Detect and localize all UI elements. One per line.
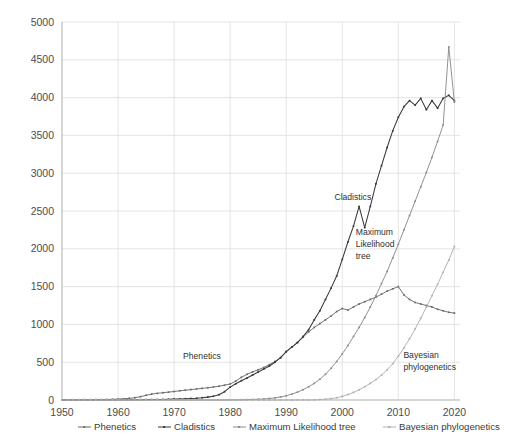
data-point — [325, 398, 327, 400]
y-axis-tick-label: 2500 — [31, 205, 55, 217]
data-point — [375, 379, 377, 381]
data-point — [341, 353, 343, 355]
data-point — [369, 383, 371, 385]
data-point — [308, 399, 310, 401]
data-point — [269, 365, 271, 367]
x-axis-tick-label: 1990 — [275, 406, 299, 418]
data-point — [381, 293, 383, 295]
data-point — [151, 393, 153, 395]
data-point — [246, 377, 248, 379]
data-point — [442, 124, 444, 126]
data-point — [336, 361, 338, 363]
x-axis-tick-label: 2020 — [443, 406, 467, 418]
data-point — [117, 399, 119, 401]
data-point — [128, 399, 130, 401]
line-chart: 0500100015002000250030003500400045005000… — [0, 0, 505, 444]
data-point — [218, 399, 220, 401]
data-point — [364, 386, 366, 388]
data-point — [95, 399, 97, 401]
chart-annotation-label: Phenetics — [183, 351, 221, 361]
data-point — [269, 399, 271, 401]
data-point — [179, 399, 181, 401]
data-point — [381, 283, 383, 285]
data-point — [414, 328, 416, 330]
data-point — [375, 295, 377, 297]
data-point — [72, 399, 74, 401]
x-axis-tick-labels: 19501960197019801990200020102020 — [50, 406, 466, 418]
data-point — [201, 397, 203, 399]
data-point — [140, 396, 142, 398]
data-point — [145, 394, 147, 396]
data-point — [257, 369, 259, 371]
data-point — [358, 327, 360, 329]
data-point — [184, 399, 186, 401]
data-point — [297, 342, 299, 344]
data-point — [168, 399, 170, 401]
data-point — [347, 345, 349, 347]
data-point — [291, 399, 293, 401]
data-point — [353, 306, 355, 308]
chart-annotation-label: Likelihood — [356, 239, 395, 249]
data-point — [241, 399, 243, 401]
data-point — [313, 327, 315, 329]
data-point — [397, 355, 399, 357]
data-point — [218, 385, 220, 387]
data-point — [201, 388, 203, 390]
data-point — [381, 374, 383, 376]
data-point — [454, 101, 456, 103]
data-point — [184, 389, 186, 391]
data-point — [437, 308, 439, 310]
x-axis-tick-label: 1980 — [218, 406, 242, 418]
data-point — [61, 399, 63, 401]
data-point — [330, 398, 332, 400]
data-point — [280, 399, 282, 401]
series-line-phenetics — [62, 287, 454, 400]
data-point — [140, 399, 142, 401]
data-point — [448, 94, 450, 96]
data-point — [218, 394, 220, 396]
data-point — [190, 399, 192, 401]
data-point — [145, 399, 147, 401]
data-point — [67, 399, 69, 401]
data-point — [196, 388, 198, 390]
x-axis-tick-label: 1970 — [162, 406, 186, 418]
y-axis-tick-labels: 0500100015002000250030003500400045005000 — [31, 16, 55, 406]
data-point — [196, 399, 198, 401]
data-point — [319, 399, 321, 401]
data-point — [190, 398, 192, 400]
x-axis-tick-label: 1950 — [50, 406, 74, 418]
data-point — [347, 241, 349, 243]
data-point — [392, 288, 394, 290]
legend-marker — [388, 426, 390, 428]
legend-label-maximum-likelihood-tree: Maximum Likelihood tree — [249, 421, 356, 432]
data-point — [325, 299, 327, 301]
x-axis-tick-label: 2000 — [331, 406, 355, 418]
data-point — [364, 301, 366, 303]
data-point — [151, 399, 153, 401]
legend-marker — [238, 426, 240, 428]
data-point — [252, 371, 254, 373]
data-point — [442, 271, 444, 273]
data-point — [106, 399, 108, 401]
chart-annotation-label: Cladistics — [334, 192, 371, 202]
data-point — [235, 380, 237, 382]
data-point — [386, 147, 388, 149]
data-point — [207, 396, 209, 398]
data-point — [392, 257, 394, 259]
data-point — [426, 172, 428, 174]
data-point — [353, 336, 355, 338]
data-point — [325, 319, 327, 321]
data-point — [414, 104, 416, 106]
data-point — [392, 130, 394, 132]
data-point — [409, 215, 411, 217]
legend-label-phenetics: Phenetics — [94, 421, 136, 432]
data-point — [213, 395, 215, 397]
data-point — [302, 399, 304, 401]
data-point — [448, 46, 450, 48]
data-point — [308, 331, 310, 333]
y-axis-tick-label: 3500 — [31, 129, 55, 141]
data-point — [319, 310, 321, 312]
data-point — [274, 397, 276, 399]
data-point — [347, 394, 349, 396]
data-point — [274, 361, 276, 363]
